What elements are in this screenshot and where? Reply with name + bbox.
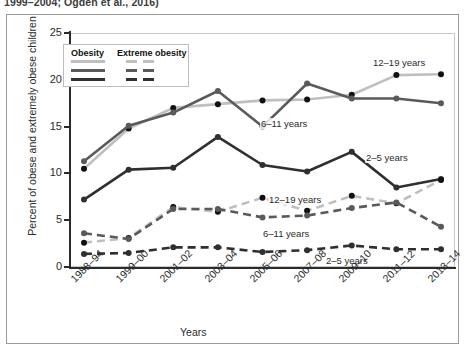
series-label-extreme-12-19: 12–19 years	[268, 194, 322, 205]
series-label-obesity-12-19: 12–19 years	[372, 57, 426, 68]
data-point	[349, 193, 355, 199]
legend-header-extreme-obesity: Extreme obesity	[117, 48, 187, 58]
x-axis-title: Years	[180, 326, 206, 338]
data-point	[170, 110, 176, 116]
data-point	[393, 184, 399, 190]
legend-swatch-dashed	[143, 60, 154, 63]
legend: Obesity Extreme obesity	[63, 44, 189, 87]
series-label-obesity-6-11: 6–11 years	[260, 118, 308, 129]
data-point	[170, 165, 176, 171]
legend-swatch-solid	[71, 60, 105, 63]
data-point	[81, 158, 87, 164]
data-point	[126, 236, 132, 242]
data-point	[126, 167, 132, 173]
series-label-obesity-2-5: 2–5 years	[365, 152, 409, 163]
data-point	[170, 244, 176, 250]
data-point	[304, 247, 310, 253]
data-point	[349, 149, 355, 155]
data-point	[438, 177, 444, 183]
data-point	[260, 249, 266, 255]
legend-swatch-dashed	[126, 60, 137, 63]
data-point	[81, 240, 87, 246]
data-point	[304, 81, 310, 87]
data-point	[81, 166, 87, 172]
data-point	[260, 162, 266, 168]
legend-swatch-solid	[71, 69, 105, 72]
data-point	[260, 97, 266, 103]
data-point	[215, 88, 221, 94]
data-point	[393, 72, 399, 78]
data-point	[126, 123, 132, 129]
data-point	[260, 214, 266, 220]
data-point	[260, 195, 266, 201]
data-point	[170, 206, 176, 212]
data-point	[393, 96, 399, 102]
chart-figure: 1999–2004; Ogden et al., 2016) Percent o…	[0, 0, 471, 353]
data-point	[349, 242, 355, 248]
data-point	[126, 250, 132, 256]
data-point	[304, 96, 310, 102]
data-point	[393, 199, 399, 205]
legend-swatch-dashed	[143, 69, 154, 72]
data-point	[438, 71, 444, 77]
data-point	[215, 134, 221, 140]
legend-swatch-dashed	[126, 69, 137, 72]
data-point	[349, 96, 355, 102]
data-point	[215, 101, 221, 107]
series-label-extreme-6-11: 6–11 years	[262, 228, 310, 239]
data-point	[349, 205, 355, 211]
legend-swatch-dashed	[143, 78, 154, 81]
data-point	[81, 230, 87, 236]
data-point	[438, 224, 444, 230]
data-point	[304, 169, 310, 175]
data-point	[215, 244, 221, 250]
legend-swatch-dashed	[126, 78, 137, 81]
data-point	[215, 206, 221, 212]
data-point	[304, 213, 310, 219]
legend-swatch-solid	[71, 78, 105, 81]
data-point	[438, 246, 444, 252]
legend-header-obesity: Obesity	[71, 48, 104, 58]
data-point	[438, 100, 444, 106]
data-point	[81, 197, 87, 203]
data-point	[393, 246, 399, 252]
series-line	[84, 137, 441, 200]
